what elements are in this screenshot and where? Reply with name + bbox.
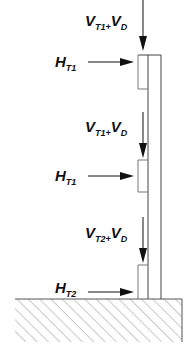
arrow-down-icon [139, 36, 147, 51]
arrow-right-icon [120, 288, 134, 296]
load-label-h3: HT2 [55, 279, 76, 299]
load-label-v2: VT1+VD [85, 118, 128, 138]
arrow-down-icon [139, 143, 147, 158]
vertical-load-1: VT1+VD [85, 0, 147, 51]
ground [15, 299, 182, 342]
load-label-h1: HT1 [55, 53, 76, 73]
load-label-v3: VT2+VD [85, 224, 128, 244]
horizontal-load-3: HT2 [55, 279, 134, 299]
horizontal-load-2: HT1 [55, 167, 134, 187]
load-label-v1: VT1+VD [85, 12, 128, 32]
ground-hatch [15, 299, 182, 342]
bracket-top [138, 55, 148, 89]
arrow-down-icon [139, 248, 147, 263]
wall-load-diagram: VT1+VD HT1 VT1+VD HT1 VT2+VD [0, 0, 193, 354]
bracket-middle [138, 160, 148, 192]
load-label-h2: HT1 [55, 167, 76, 187]
vertical-load-2: VT1+VD [85, 112, 147, 158]
bracket-bottom [138, 265, 148, 299]
wall [138, 55, 161, 299]
arrow-right-icon [120, 58, 134, 66]
arrow-right-icon [120, 172, 134, 180]
horizontal-load-1: HT1 [55, 53, 134, 73]
vertical-load-3: VT2+VD [85, 217, 147, 263]
